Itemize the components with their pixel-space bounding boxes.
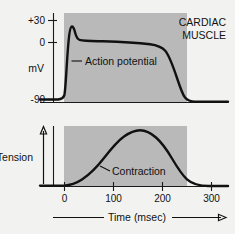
figure-title-line1: CARDIAC (179, 16, 227, 28)
cardiac-muscle-figure: +30 0 -90 mV Action potential CARDIAC MU… (0, 0, 235, 234)
x-tick-label-0: 0 (62, 193, 68, 204)
bottom-plot-y-axis-label: Tension (0, 151, 33, 163)
contraction-label: Contraction (112, 165, 166, 177)
top-plot-ytick-label-30: +30 (28, 15, 45, 26)
figure-title-line2: MUSCLE (182, 29, 226, 41)
top-plot-ytick-label-0: 0 (39, 37, 45, 48)
x-tick-label-300: 300 (203, 193, 220, 204)
x-tick-label-200: 200 (154, 193, 171, 204)
action-potential-label: Action potential (85, 55, 157, 67)
top-plot-y-axis-label: mV (28, 62, 44, 74)
x-axis-group: 0 100 200 300 Time (msec) (53, 182, 226, 223)
figure-svg: +30 0 -90 mV Action potential CARDIAC MU… (0, 0, 235, 234)
x-axis-label: Time (msec) (108, 211, 166, 223)
x-tick-label-100: 100 (105, 193, 122, 204)
